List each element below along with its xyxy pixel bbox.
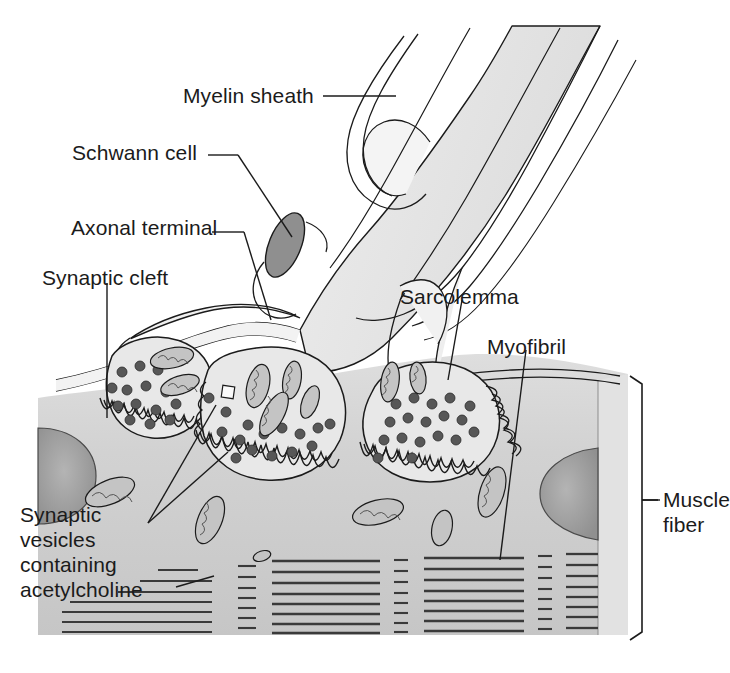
label-myelin-sheath: Myelin sheath <box>183 83 314 108</box>
label-myofibril: Myofibril <box>487 334 566 359</box>
label-axonal-terminal: Axonal terminal <box>71 215 217 240</box>
label-muscle-fiber: Muscle fiber <box>663 487 730 537</box>
label-synaptic-vesicles: Synaptic vesicles containing acetylcholi… <box>20 502 143 602</box>
label-synaptic-cleft: Synaptic cleft <box>42 265 168 290</box>
schwann-cell-nucleus <box>257 207 312 282</box>
muscle-fiber-right-edge <box>598 374 628 635</box>
muscle-fiber-bracket <box>630 376 658 640</box>
label-sarcolemma: Sarcolemma <box>400 284 519 309</box>
label-schwann-cell: Schwann cell <box>72 140 197 165</box>
